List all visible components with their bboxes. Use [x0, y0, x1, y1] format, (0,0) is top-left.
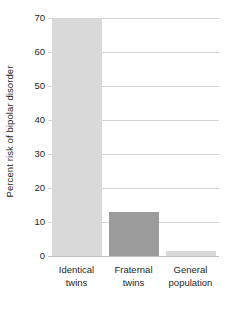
y-axis-tick-label: 0 [40, 251, 45, 261]
bar [166, 251, 216, 256]
y-axis-tick-label: 30 [34, 149, 45, 159]
x-axis-category-label-line: population [157, 277, 224, 290]
plot-area [48, 0, 219, 262]
bar [52, 18, 102, 256]
x-axis-category-label: Generalpopulation [157, 264, 224, 289]
x-axis-category-label-line: General [157, 264, 224, 277]
bar [109, 212, 159, 256]
y-axis-tick-label: 20 [34, 183, 45, 193]
y-axis-tick-label: 10 [34, 217, 45, 227]
bar-chart-figure: Percent risk of bipolar disorder 0102030… [0, 0, 229, 310]
y-axis-title: Percent risk of bipolar disorder [0, 0, 18, 262]
y-axis-tick-labels: 010203040506070 [18, 0, 48, 262]
y-axis-tick-label: 70 [34, 13, 45, 23]
y-axis-tick-label: 40 [34, 115, 45, 125]
y-axis-tick-label: 60 [34, 47, 45, 57]
y-axis-tick-label: 50 [34, 81, 45, 91]
x-axis-category-labels: IdenticaltwinsFraternaltwinsGeneralpopul… [48, 264, 219, 308]
y-axis-title-text: Percent risk of bipolar disorder [4, 65, 15, 197]
